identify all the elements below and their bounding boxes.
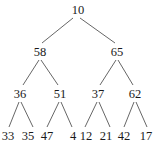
tree-edge [41,60,58,85]
tree-edge [80,18,115,43]
tree-node: 42 [118,129,131,143]
tree-edge [23,60,39,85]
tree-nodes: 10586536513762333547412214217 [2,3,153,143]
tree-edge [100,60,116,85]
tree-node: 51 [54,87,67,101]
tree-edges [9,18,147,127]
tree-node: 65 [111,45,124,59]
tree-edge [118,60,133,85]
tree-edge [85,102,97,127]
binary-tree-diagram: 10586536513762333547412214217 [0,0,157,143]
tree-node: 62 [129,87,142,101]
tree-edge [99,102,110,127]
tree-node: 21 [100,129,113,143]
tree-node: 4 [70,129,77,143]
tree-node: 12 [80,129,93,143]
tree-node: 17 [140,129,153,143]
tree-edge [61,102,72,127]
tree-edge [9,102,19,127]
tree-node: 33 [2,129,15,143]
tree-node: 35 [22,129,35,143]
tree-edge [124,102,134,127]
tree-edge [21,102,33,127]
tree-edge [136,102,147,127]
tree-edge [47,102,59,127]
tree-node: 10 [72,3,85,17]
tree-node: 47 [41,129,54,143]
tree-node: 36 [14,87,27,101]
tree-node: 58 [34,45,47,59]
tree-edge [42,18,73,43]
tree-node: 37 [92,87,105,101]
